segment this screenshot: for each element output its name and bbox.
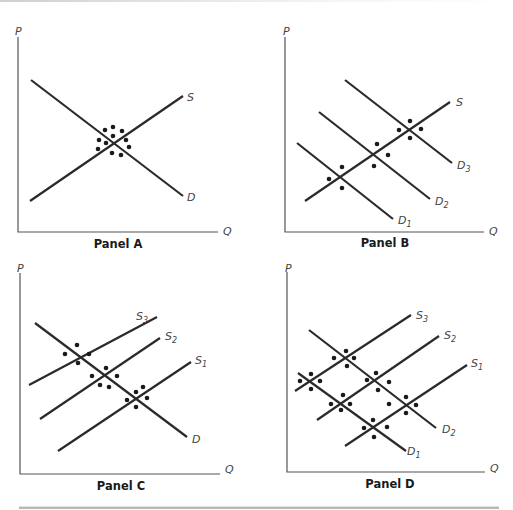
panel-d-label-s2: S2 (444, 329, 456, 344)
panel-b-label-d1: D1 (398, 214, 412, 229)
panel-b: P Q S D1 D2 D3 Panel B (283, 25, 498, 250)
panel-a-label-s: S (187, 91, 194, 104)
panel-d-label-s1: S1 (471, 357, 483, 372)
top-border (0, 0, 513, 2)
panel-a-y-axis-label: P (15, 25, 22, 38)
panel-c-title: Panel C (97, 479, 145, 493)
panel-b-y-axis-label: P (283, 25, 290, 38)
panel-b-x-axis-label: Q (489, 225, 498, 238)
panel-a: P Q S D Panel A (15, 25, 232, 251)
panel-d-label-s3: S3 (416, 309, 428, 324)
panel-b-label-d3: D3 (457, 159, 471, 174)
panel-c-supply-curve-s1 (58, 362, 191, 451)
panel-b-demand-curve-d3 (345, 80, 452, 163)
panel-b-axes (285, 37, 484, 232)
panel-c-supply-curve-s2 (40, 338, 160, 419)
figure-svg: P Q S D Panel A P (0, 0, 513, 510)
panel-a-x-axis-label: Q (223, 225, 232, 238)
panel-d-supply-curve-s3 (295, 315, 411, 391)
panel-d: P Q S3 S2 S1 D2 D1 (285, 262, 499, 491)
panel-c-label-s2: S2 (165, 330, 177, 345)
panel-c-x-axis-label: Q (225, 463, 234, 476)
panel-c-label-d: D (192, 433, 200, 446)
panel-c-label-s3: S3 (136, 310, 148, 325)
panel-c: P Q S3 S2 S1 D (17, 262, 234, 493)
panel-b-label-d2: D2 (435, 195, 449, 210)
panel-a-label-d: D (187, 191, 195, 204)
panel-c-y-axis-label: P (17, 262, 24, 275)
panel-d-title: Panel D (365, 477, 414, 491)
panel-c-label-s1: S1 (195, 354, 207, 369)
panel-d-y-axis-label: P (285, 262, 292, 275)
panel-a-demand-curve (31, 80, 183, 196)
panel-d-x-axis-label: Q (490, 462, 499, 475)
panel-b-demand-curve-d1 (297, 143, 393, 219)
panel-d-demand-curve-d1 (298, 373, 406, 451)
panel-a-title: Panel A (94, 237, 143, 251)
panel-d-supply-curve-s2 (317, 336, 439, 420)
panel-a-supply-curve (30, 96, 183, 201)
panel-d-label-d1: D1 (407, 445, 421, 460)
bottom-divider (19, 506, 499, 509)
supply-demand-identification-figure: P Q S D Panel A P (0, 0, 513, 510)
panel-d-label-d2: D2 (442, 423, 456, 438)
panel-b-demand-curve-d2 (319, 112, 430, 199)
panel-b-title: Panel B (361, 236, 410, 250)
panel-b-label-s: S (456, 96, 463, 109)
